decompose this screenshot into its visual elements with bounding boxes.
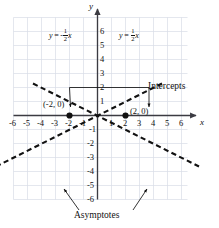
xtick-2: 2 <box>123 119 127 128</box>
ytick-2: 2 <box>100 83 104 92</box>
xtick-neg5: -5 <box>23 119 30 128</box>
ytick-4: 4 <box>100 55 104 64</box>
ytick-6: 6 <box>100 27 104 36</box>
ytick-3: 3 <box>100 69 104 78</box>
asymptotes-callout-label: Asymptotes <box>74 211 119 221</box>
equation-right-variable: x <box>135 31 139 40</box>
asymptote-negative-slope <box>33 84 199 167</box>
equation-left-denominator: 2 <box>63 35 67 43</box>
equation-left-fraction: 12 <box>63 28 67 42</box>
ytick-neg5: -5 <box>87 181 94 190</box>
intercepts-callout-label: Intercepts <box>148 82 185 92</box>
point-label-neg-two-zero: (-2, 0) <box>43 100 64 109</box>
equation-left-variable: x <box>68 31 72 40</box>
equation-left-numerator: 1 <box>63 28 67 35</box>
coordinate-plane-figure: x y -6 -5 -4 -3 -2 -1 1 2 3 4 5 6 6 5 4 … <box>0 0 219 228</box>
xtick-1: 1 <box>109 119 113 128</box>
ytick-5: 5 <box>100 41 104 50</box>
y-axis-label: y <box>89 2 93 11</box>
graph-canvas <box>0 0 219 228</box>
xtick-6: 6 <box>179 119 183 128</box>
xtick-5: 5 <box>165 119 169 128</box>
equation-label-positive-slope: y = 12x <box>119 28 139 42</box>
ytick-neg2: -2 <box>87 139 94 148</box>
xtick-3: 3 <box>137 119 141 128</box>
point-label-two-zero: (2, 0) <box>130 107 148 116</box>
ytick-neg4: -4 <box>87 167 94 176</box>
xtick-neg6: -6 <box>9 119 16 128</box>
ytick-neg6: -6 <box>87 195 94 204</box>
ytick-1: 1 <box>100 97 104 106</box>
axes <box>14 9 197 200</box>
ytick-neg3: -3 <box>87 153 94 162</box>
ytick-neg1: -1 <box>89 125 96 134</box>
xtick-neg4: -4 <box>37 119 44 128</box>
x-axis-label: x <box>200 118 204 127</box>
xtick-neg1: -1 <box>79 119 86 128</box>
xtick-neg2: -2 <box>65 119 72 128</box>
equation-label-negative-slope: y = -12x <box>49 28 72 42</box>
xtick-4: 4 <box>151 119 155 128</box>
xtick-neg3: -3 <box>51 119 58 128</box>
